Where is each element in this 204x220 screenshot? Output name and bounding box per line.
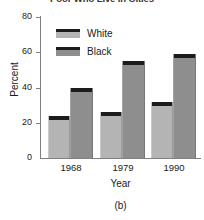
bar-black-1979[interactable] xyxy=(122,61,145,158)
x-axis-title: Year xyxy=(41,178,200,189)
bar-cap xyxy=(101,112,121,116)
x-tick-label-1979: 1979 xyxy=(100,162,146,173)
x-tick-label-1990: 1990 xyxy=(151,162,197,173)
legend-swatch-cap xyxy=(56,47,80,50)
bar-black-1990[interactable] xyxy=(173,54,196,158)
bar-white-1990[interactable] xyxy=(151,102,173,158)
bar-group-1990 xyxy=(151,17,197,158)
chart-title: Poor Who Live in Cities xyxy=(0,0,204,2)
bar-white-1979[interactable] xyxy=(100,112,122,158)
legend-swatch-black-icon xyxy=(56,47,80,56)
x-tick-label-1968: 1968 xyxy=(48,162,94,173)
x-axis-line xyxy=(40,158,201,159)
legend-swatch-white-icon xyxy=(56,29,80,38)
bar-black-1968[interactable] xyxy=(70,88,93,159)
plot-area xyxy=(41,17,200,158)
y-tick-label-0: 0 xyxy=(27,152,32,163)
bar-cap xyxy=(71,88,92,92)
y-tick-label-40: 40 xyxy=(22,82,32,93)
bar-cap xyxy=(174,54,195,58)
figure-caption: (b) xyxy=(41,200,200,211)
legend-label-black: Black xyxy=(87,44,111,59)
bar-white-1968[interactable] xyxy=(48,116,70,158)
legend-label-white: White xyxy=(87,26,113,41)
bar-chart-figure: Poor Who Live in Cities 80 60 40 20 0 Pe… xyxy=(0,0,204,220)
y-tick-label-80: 80 xyxy=(22,11,32,22)
y-tick-label-20: 20 xyxy=(22,117,32,128)
y-axis-title: Percent xyxy=(9,35,20,125)
bar-cap xyxy=(123,61,144,65)
legend-swatch-cap xyxy=(56,29,80,32)
bar-cap xyxy=(49,116,69,120)
y-tick-label-60: 60 xyxy=(22,46,32,57)
bar-cap xyxy=(152,102,172,106)
